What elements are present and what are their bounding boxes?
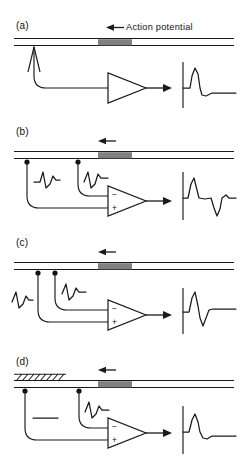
output-arrow-a <box>146 84 172 92</box>
amplifier-d-plus-input: + <box>112 435 117 445</box>
amplifier-a <box>108 73 146 103</box>
lead-c1 <box>38 273 108 322</box>
action-potential-block-a <box>98 39 132 45</box>
propagation-arrow-b <box>98 138 116 145</box>
output-arrow-d <box>146 429 172 437</box>
panel-c-drawing: − + <box>0 222 241 336</box>
local-trace-d2 <box>85 402 109 418</box>
lead-a <box>34 47 108 88</box>
amplifier-b-plus-input: + <box>112 203 117 213</box>
amplifier-b-minus-input: − <box>112 189 117 199</box>
action-potential-block-b <box>98 152 132 158</box>
propagation-arrow-c <box>98 249 116 256</box>
output-trace-a <box>183 68 236 96</box>
output-arrow-c <box>146 311 172 319</box>
propagation-arrow-a <box>106 24 124 31</box>
panel-d: (d) <box>0 336 241 456</box>
propagation-arrow-d <box>98 367 116 374</box>
figure-root: (a) Action potential <box>0 0 241 456</box>
panel-d-drawing: − + <box>0 336 241 456</box>
local-trace-c1 <box>12 292 33 308</box>
lead-b2 <box>78 162 108 196</box>
nerve-crush-hatching <box>14 374 66 381</box>
output-trace-d <box>183 414 236 439</box>
lead-b1 <box>27 162 108 208</box>
local-trace-b1 <box>34 172 60 188</box>
output-arrow-b <box>146 197 172 205</box>
amplifier-c-minus-input: − <box>112 303 117 313</box>
output-trace-b <box>183 178 236 216</box>
amplifier-d-minus-input: − <box>112 421 117 431</box>
local-trace-b2 <box>84 172 108 188</box>
lead-d1 <box>25 391 108 440</box>
local-trace-c2 <box>62 284 86 300</box>
panel-a: (a) Action potential <box>0 0 241 110</box>
panel-a-drawing <box>0 0 241 110</box>
action-potential-block-c <box>98 263 132 269</box>
amplifier-c-plus-input: + <box>112 317 117 327</box>
panel-c: (c) − + <box>0 222 241 336</box>
output-trace-c <box>183 292 236 326</box>
panel-b: (b) − + <box>0 110 241 222</box>
panel-b-drawing: − + <box>0 110 241 222</box>
action-potential-block-d <box>98 381 132 387</box>
